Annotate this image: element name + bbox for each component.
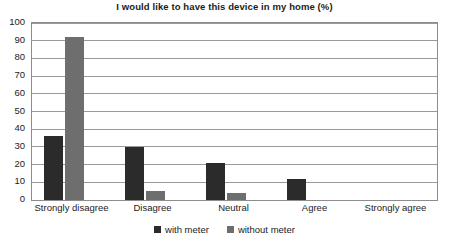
y-axis-tick-label: 30 [14,141,25,151]
gridline [32,129,437,130]
y-axis: 1009080706050403020100 [0,22,28,201]
legend-item: with meter [154,224,209,235]
legend-swatch-icon [227,226,234,233]
x-axis-tick-label: Strongly disagree [35,203,109,213]
gridline [32,164,437,165]
gridline [32,23,437,24]
plot-area [31,22,438,201]
y-axis-tick-label: 100 [9,17,25,27]
x-axis-tick-label: Neutral [218,203,249,213]
bar [287,179,306,200]
x-axis: Strongly disagreeDisagreeNeutralAgreeStr… [31,203,438,219]
chart-legend: with meterwithout meter [0,224,449,235]
bar [206,163,225,200]
y-axis-tick-label: 20 [14,159,25,169]
bar [125,147,144,200]
legend-swatch-icon [154,226,161,233]
bar-chart: I would like to have this device in my h… [0,0,449,246]
y-axis-tick-label: 40 [14,123,25,133]
gridline [32,58,437,59]
legend-item: without meter [227,224,295,235]
legend-label: with meter [165,224,209,235]
y-axis-tick-label: 50 [14,106,25,116]
gridline [32,111,437,112]
gridline [32,182,437,183]
bar [44,136,63,200]
gridline [32,76,437,77]
legend-label: without meter [238,224,295,235]
gridline [32,93,437,94]
y-axis-tick-label: 70 [14,70,25,80]
x-axis-tick-label: Disagree [133,203,171,213]
y-axis-tick-label: 90 [14,35,25,45]
y-axis-tick-label: 80 [14,53,25,63]
y-axis-tick-label: 0 [20,194,25,204]
gridline [32,146,437,147]
bar [227,193,246,200]
bar [146,191,165,200]
chart-title: I would like to have this device in my h… [0,1,449,12]
y-axis-tick-label: 60 [14,88,25,98]
y-axis-tick-label: 10 [14,177,25,187]
x-axis-tick-label: Agree [302,203,327,213]
bar [65,37,84,200]
gridline [32,40,437,41]
x-axis-tick-label: Strongly agree [365,203,427,213]
